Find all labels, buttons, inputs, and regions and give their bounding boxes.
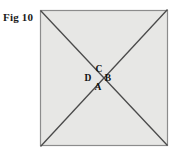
figure-container: Fig 10 C B D A	[0, 0, 180, 154]
point-label-a: A	[95, 82, 102, 92]
geometry-diagram: C B D A	[0, 0, 180, 154]
point-label-c: C	[96, 64, 103, 74]
point-label-d: D	[85, 73, 92, 83]
point-label-b: B	[105, 73, 112, 83]
